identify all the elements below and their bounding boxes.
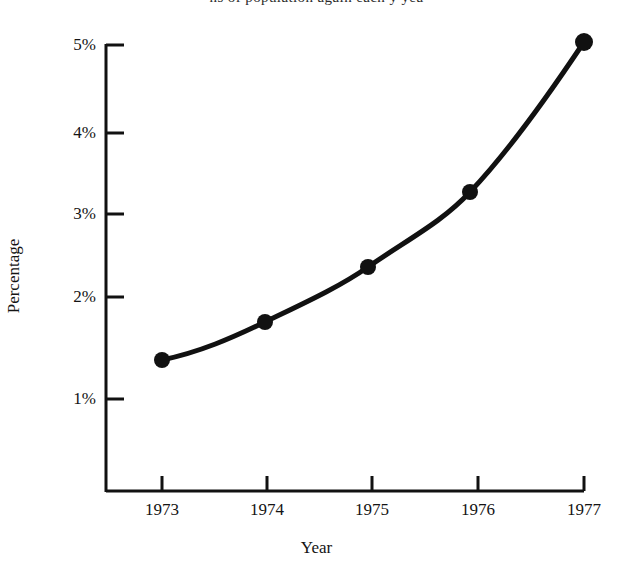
x-tick-label-1977: 1977	[544, 500, 624, 520]
x-tick-label-1976: 1976	[438, 500, 518, 520]
data-point-1974	[257, 314, 273, 330]
data-line-percentage	[162, 42, 584, 360]
x-axis-title: Year	[0, 538, 633, 558]
x-tick-label-1973: 1973	[122, 500, 202, 520]
x-tick-label-1974: 1974	[227, 500, 307, 520]
y-tick-label-3: 3%	[50, 204, 96, 224]
x-axis-ticks	[162, 476, 584, 491]
y-tick-label-5: 5%	[50, 35, 96, 55]
y-axis-ticks	[106, 45, 124, 399]
data-point-1977	[575, 33, 593, 51]
line-chart: ns of population again each y yea	[0, 0, 633, 576]
data-point-1975	[360, 259, 376, 275]
data-point-1976	[462, 184, 478, 200]
y-tick-label-1: 1%	[50, 389, 96, 409]
y-axis-title: Percentage	[4, 196, 24, 356]
y-tick-label-4: 4%	[50, 123, 96, 143]
y-tick-label-2: 2%	[50, 287, 96, 307]
data-point-markers	[154, 33, 593, 368]
data-point-1973	[154, 352, 170, 368]
x-tick-label-1975: 1975	[332, 500, 412, 520]
